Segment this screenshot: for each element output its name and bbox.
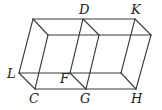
label-H: H [130,91,143,106]
label-F: F [59,71,70,86]
label-D: D [78,2,90,17]
edge-front-mid-vertical [86,35,99,89]
edge-K-depth [135,19,151,35]
prism-diagram: D K L F C G H [0,0,162,110]
edge-FG [70,73,86,89]
edge-bottom-right-depth [121,73,136,89]
edge-D-depth [83,19,99,35]
edge-LC [19,73,35,89]
edge-K-vertical [121,19,135,73]
edges [19,19,151,89]
label-K: K [130,2,142,17]
edge-front-left-vertical [35,35,48,89]
edge-top-left-depth [33,19,48,35]
edge-DF [70,19,83,73]
edge-front-right-vertical [136,35,151,89]
label-G: G [80,91,90,106]
edge-back-left-vertical [19,19,33,73]
label-C: C [29,91,39,106]
label-L: L [6,66,16,81]
